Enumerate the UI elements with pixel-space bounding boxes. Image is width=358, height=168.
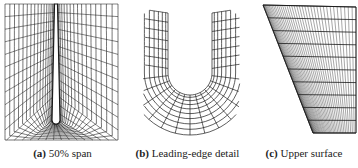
mesh-upper-surface-diagram: [250, 0, 358, 145]
caption-a: (a) 50% span: [0, 147, 125, 159]
panel-b-leading-edge: (b) Leading-edge detail: [125, 0, 250, 168]
caption-c-label: (c): [266, 147, 278, 159]
mesh-leading-edge-diagram: [125, 0, 250, 145]
caption-a-text: 50% span: [49, 147, 92, 159]
caption-b: (b) Leading-edge detail: [125, 147, 250, 159]
caption-c: (c) Upper surface: [250, 147, 358, 159]
caption-b-label: (b): [136, 147, 149, 159]
panel-a-50-span: (a) 50% span: [0, 0, 125, 168]
caption-a-label: (a): [33, 147, 46, 159]
mesh-50-span-diagram: [0, 0, 125, 145]
panel-c-upper-surface: (c) Upper surface: [250, 0, 358, 168]
caption-c-text: Upper surface: [280, 147, 342, 159]
caption-b-text: Leading-edge detail: [152, 147, 240, 159]
